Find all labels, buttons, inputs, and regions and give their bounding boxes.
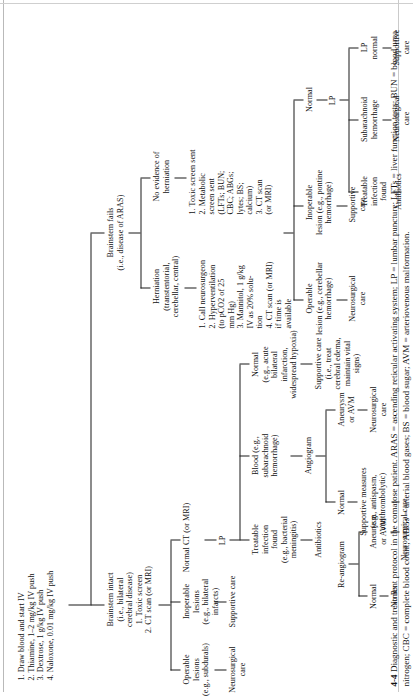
connector-reangio-normal-to-norx (379, 595, 388, 596)
figure-caption-title: Diagnostic and treatment protocol in the… (388, 459, 398, 672)
node-ct-inoperable-lesion: Inoperable lesion (e.g., pontine hemorrh… (304, 156, 333, 248)
node-angio-aneurysm-treatment: Neurosurgical care (368, 374, 387, 444)
connector-fails-stem (128, 232, 140, 233)
connector-ct-inoperable-to-tx (336, 205, 347, 206)
connector-root-split (90, 233, 91, 605)
connector-ct-normal (293, 99, 303, 100)
connector-root-left-drop (90, 604, 104, 605)
node-lp-treatable-infection: Treatable infection found (359, 158, 388, 224)
connector-ct-operable (293, 299, 303, 300)
connector-reangio-right (358, 531, 367, 532)
connector-angio-normal-to-measures (347, 501, 357, 502)
node-normal-lp-cerebral: Normal (e.g., acute bilateral infarction… (250, 314, 298, 414)
connector-blood-to-angiogram (290, 455, 302, 456)
node-blood-sah: Blood (e.g., subarachnoid hemorrhage) (250, 416, 279, 494)
node-reangiogram-aneurysm: Aneurysm or AVM (368, 502, 387, 560)
connector-root-right-drop (90, 232, 104, 233)
node-lp-cerebral: LP (217, 520, 227, 560)
connector-intact-mid (170, 601, 180, 602)
connector-lp2-sah (348, 119, 358, 120)
connector-ct-operable-to-tx (336, 299, 347, 300)
node-lp-brainstem: LP (327, 80, 337, 120)
connector-angiogram-right (325, 409, 335, 410)
node-angiogram-normal: Normal (336, 472, 346, 532)
connector-intact-split (170, 540, 171, 670)
node-inoperable-lesions-treatment: Supportive care (227, 566, 237, 636)
connector-intact-right (170, 539, 180, 540)
connector-lp2-normal (348, 47, 358, 48)
node-treatable-infection-cerebral: Treatable infection found (e.g., bacteri… (250, 498, 298, 580)
node-ct-operable-lesion: Operable lesion (e.g., cerebellar hemorr… (304, 252, 333, 344)
connector-lp-stem (229, 539, 239, 540)
figure-number: 4-4 (388, 674, 398, 686)
connector-reangio-left (358, 595, 367, 596)
node-brainstem-intact: Brainstem intact (i.e., bilateral cerebr… (105, 524, 153, 674)
node-angiogram-aneurysm: Aneurysm or AVM (336, 378, 355, 440)
node-ct-normal: Normal (304, 70, 314, 128)
connector-intact-left (170, 669, 180, 670)
node-herniation: Herniation (transtentorial, cerebellar, … (151, 246, 180, 326)
connector-lp-branch-normal (239, 363, 249, 364)
node-lp-subarachnoid-hemorrhage: Subarachnoid hemorrhage (359, 82, 378, 156)
connector-lp-split (239, 364, 240, 540)
connector-angio-aneurysm-to-tx (357, 409, 367, 410)
node-brainstem-fails: Brainstem fails (i.e., disease of ARAS) (105, 164, 124, 300)
node-lp-normal: LP normal (359, 20, 378, 74)
node-initial-orders: 1. Draw blood and start IV 2. Thiamine, … (16, 530, 54, 680)
connector-normalct-to-lp (204, 539, 216, 540)
connector-ct-normal-to-lp (316, 99, 327, 100)
connector-inoperable-to-tx (214, 601, 226, 602)
connector-root-stem (68, 604, 90, 605)
connector-reangio-split (358, 532, 359, 596)
connector-angiogram-stem (315, 455, 325, 456)
node-normal-ct-mri: Normal CT (or MRI) (181, 500, 191, 574)
node-antibiotics-cerebral: Antibiotics (313, 504, 323, 574)
connector-lp-branch-infection (239, 539, 249, 540)
connector-intact-stem (158, 604, 170, 605)
connector-ct-inoperable (293, 205, 303, 206)
node-reangiogram-normal: Normal (368, 570, 378, 622)
node-no-evidence-herniation: No evidence of herniation (151, 138, 170, 214)
connector-operable-to-tx (214, 669, 226, 670)
node-operable-lesions-treatment: Neurosurgical care (227, 634, 246, 700)
connector-herniation-to-orders (184, 287, 196, 288)
connector-fails-right (140, 177, 150, 178)
connector-angiogram-left (325, 501, 335, 502)
connector-fails-left (140, 287, 150, 288)
node-angiogram: Angiogram (303, 420, 313, 490)
node-reangiogram-visible: Re-angiogram (336, 528, 346, 600)
connector-fails-split (140, 178, 141, 288)
connector-reangio-stem (348, 563, 358, 564)
node-no-herniation-orders: 1. Toxic screen sent 2. Metabolic screen… (187, 122, 273, 214)
connector-lp-branch-blood (239, 455, 249, 456)
connector-lp2-stem (339, 99, 348, 100)
node-ct-operable-treatment: Neurosurgical care (347, 260, 366, 336)
connector-infection-to-abx (300, 539, 312, 540)
connector-no-herniation-to-orders (174, 177, 186, 178)
figure-caption: 4-4 Diagnostic and treatment protocol in… (388, 10, 411, 686)
node-operable-lesions: Operable lesions (e.g., subdurals) (181, 634, 210, 700)
connector-ct-split (293, 100, 294, 300)
connector-ct-stem (283, 232, 293, 233)
connector-lp2-infection (348, 191, 358, 192)
connector-angiogram-split (325, 410, 326, 502)
connector-normal-to-supportive (300, 363, 312, 364)
node-herniation-orders: 1. Call neurosurgeon 2. Hyperventilation… (197, 228, 292, 328)
